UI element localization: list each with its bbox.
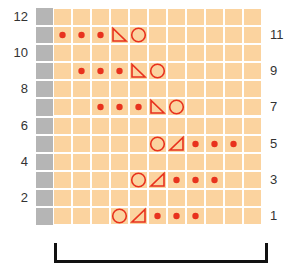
purl-dot-icon (91, 26, 110, 44)
purl-dot-icon (148, 207, 167, 225)
chart-cell (206, 27, 223, 43)
chart-cell (130, 154, 147, 170)
chart-cell (54, 172, 71, 188)
row-number-label: 3 (270, 172, 293, 187)
chart-cell (168, 63, 185, 79)
chart-cell (73, 9, 90, 25)
chart-cell (73, 208, 90, 224)
chart-cell (206, 154, 223, 170)
chart-cell (168, 118, 185, 134)
grid-line (36, 170, 53, 172)
chart-cell (225, 208, 242, 224)
row-number-label: 5 (270, 136, 293, 151)
yarn-over-circle-icon (148, 135, 167, 153)
chart-cell (92, 45, 109, 61)
chart-cell (168, 45, 185, 61)
decrease-left-triangle-icon (148, 98, 167, 116)
grid-line (36, 79, 53, 81)
chart-cell (244, 99, 261, 115)
grid-line (36, 188, 53, 190)
chart-cell (244, 118, 261, 134)
chart-cell (225, 154, 242, 170)
chart-cell (54, 136, 71, 152)
chart-cell (206, 81, 223, 97)
chart-cell (92, 154, 109, 170)
row-number-label: 4 (4, 154, 28, 169)
chart-cell (225, 27, 242, 43)
chart-cell (54, 63, 71, 79)
chart-cell (206, 208, 223, 224)
yarn-over-circle-icon (110, 207, 129, 225)
chart-cell (111, 118, 128, 134)
yarn-over-circle-icon (148, 62, 167, 80)
chart-cell (206, 9, 223, 25)
chart-cell (168, 9, 185, 25)
purl-dot-icon (72, 62, 91, 80)
row-number-label: 1 (270, 208, 293, 223)
chart-cell (168, 154, 185, 170)
chart-cell (225, 45, 242, 61)
purl-dot-icon (72, 26, 91, 44)
chart-cell (92, 81, 109, 97)
chart-cell (187, 118, 204, 134)
chart-cell (111, 154, 128, 170)
purl-dot-icon (224, 135, 243, 153)
chart-cell (73, 136, 90, 152)
row-number-label: 10 (4, 45, 28, 60)
chart-cell (73, 172, 90, 188)
chart-cell (187, 81, 204, 97)
grid-line (36, 61, 53, 63)
chart-cell (111, 172, 128, 188)
chart-cell (73, 154, 90, 170)
chart-cell (187, 63, 204, 79)
chart-cell (244, 172, 261, 188)
yarn-over-circle-icon (129, 171, 148, 189)
chart-cell (225, 99, 242, 115)
chart-cell (149, 9, 166, 25)
purl-dot-icon (167, 207, 186, 225)
chart-cell (187, 99, 204, 115)
decrease-left-triangle-icon (129, 62, 148, 80)
chart-cell (130, 136, 147, 152)
decrease-right-triangle-icon (148, 171, 167, 189)
chart-cell (92, 9, 109, 25)
chart-cell (92, 118, 109, 134)
chart-cell (225, 172, 242, 188)
chart-cell (225, 118, 242, 134)
purl-dot-icon (129, 98, 148, 116)
grid-line (36, 25, 53, 27)
row-number-label: 7 (270, 99, 293, 114)
chart-cell (168, 27, 185, 43)
row-number-label: 9 (270, 63, 293, 78)
chart-cell (54, 45, 71, 61)
chart-cell (130, 45, 147, 61)
chart-cell (244, 27, 261, 43)
purl-dot-icon (186, 135, 205, 153)
grid-line (36, 43, 53, 45)
chart-cell (149, 118, 166, 134)
chart-cell (149, 81, 166, 97)
chart-cell (225, 81, 242, 97)
chart-cell (149, 154, 166, 170)
chart-cell (54, 208, 71, 224)
chart-cell (149, 45, 166, 61)
chart-cell (92, 208, 109, 224)
decrease-right-triangle-icon (129, 207, 148, 225)
chart-cell (73, 190, 90, 206)
chart-cell (54, 99, 71, 115)
chart-cell (54, 118, 71, 134)
chart-cell (111, 9, 128, 25)
row-number-label: 11 (270, 27, 293, 42)
chart-cell (244, 63, 261, 79)
chart-cell (225, 190, 242, 206)
chart-cell (187, 27, 204, 43)
chart-cell (130, 190, 147, 206)
chart-cell (225, 63, 242, 79)
chart-cell (149, 190, 166, 206)
chart-cell (244, 9, 261, 25)
pattern-repeat-bracket (54, 243, 268, 263)
chart-cell (54, 81, 71, 97)
chart-cell (244, 208, 261, 224)
chart-cell (206, 118, 223, 134)
chart-cell (244, 81, 261, 97)
